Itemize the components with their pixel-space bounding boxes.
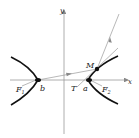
hyperbola-diagram: y x M b T a F1 F2 bbox=[0, 0, 139, 138]
label-x: x bbox=[128, 78, 132, 86]
label-T: T bbox=[71, 84, 77, 93]
label-a: a bbox=[83, 84, 88, 93]
incident-arrow bbox=[66, 73, 72, 76]
point-a bbox=[86, 78, 92, 82]
label-M: M bbox=[85, 61, 95, 70]
label-b: b bbox=[40, 84, 45, 93]
f2-pointer bbox=[92, 81, 102, 86]
point-M bbox=[95, 67, 99, 71]
label-F1: F1 bbox=[15, 85, 25, 95]
label-F2: F2 bbox=[101, 85, 111, 95]
point-b bbox=[35, 78, 41, 82]
